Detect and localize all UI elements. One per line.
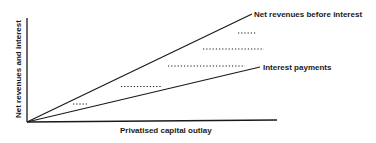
lower-line-label: Interest payments xyxy=(263,63,332,72)
interest-payments-line xyxy=(27,67,260,122)
y-axis-label: Net revenues and interest xyxy=(14,20,23,118)
dotted-segments xyxy=(73,33,264,104)
x-axis xyxy=(27,120,277,122)
x-axis-label: Privatised capital outlay xyxy=(120,126,212,135)
net-revenues-line xyxy=(27,14,252,122)
diagram-container: Net revenues before interest Interest pa… xyxy=(0,0,376,143)
upper-line-label: Net revenues before interest xyxy=(254,10,362,19)
